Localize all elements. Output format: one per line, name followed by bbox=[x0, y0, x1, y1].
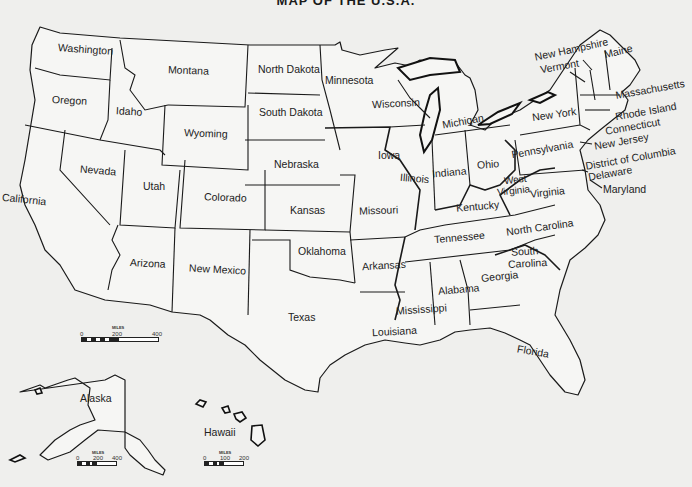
label-south-dakota: South Dakota bbox=[259, 107, 323, 118]
scale-bar-hawaii: MILES 0 100 200 bbox=[203, 450, 248, 468]
label-idaho: Idaho bbox=[116, 105, 143, 117]
label-minnesota: Minnesota bbox=[325, 75, 373, 86]
alaska-island bbox=[10, 455, 25, 462]
label-montana: Montana bbox=[168, 64, 209, 76]
label-colorado: Colorado bbox=[204, 191, 247, 203]
label-iowa: Iowa bbox=[378, 150, 400, 161]
label-oklahoma: Oklahoma bbox=[298, 246, 346, 257]
label-south-carolina-1: South bbox=[511, 245, 539, 257]
label-arkansas: Arkansas bbox=[362, 259, 406, 272]
label-illinois: Illinois bbox=[400, 172, 430, 185]
label-louisiana: Louisiana bbox=[372, 325, 417, 338]
scale-bar-alaska: MILES 0 200 400 bbox=[76, 450, 121, 468]
label-alaska: Alaska bbox=[80, 393, 112, 404]
label-wisconsin: Wisconsin bbox=[372, 97, 420, 110]
alaska-island bbox=[35, 388, 42, 394]
label-maryland: Maryland bbox=[603, 184, 646, 195]
label-ohio: Ohio bbox=[477, 158, 500, 170]
label-kansas: Kansas bbox=[290, 205, 325, 216]
label-hawaii: Hawaii bbox=[204, 427, 236, 438]
label-north-dakota: North Dakota bbox=[258, 64, 320, 75]
label-new-mexico: New Mexico bbox=[189, 263, 247, 276]
hawaii-island bbox=[251, 425, 265, 446]
hawaii-island bbox=[234, 412, 246, 422]
label-wyoming: Wyoming bbox=[184, 127, 228, 139]
label-texas: Texas bbox=[288, 312, 315, 323]
label-nebraska: Nebraska bbox=[274, 159, 319, 170]
label-south-carolina-2: Carolina bbox=[508, 257, 548, 270]
hawaii-island bbox=[222, 406, 230, 413]
label-missouri: Missouri bbox=[359, 204, 398, 216]
hawaii-island bbox=[196, 400, 206, 407]
label-arizona: Arizona bbox=[130, 257, 166, 269]
label-utah: Utah bbox=[143, 181, 165, 192]
scale-bar-main: MILES 0 200 400 bbox=[80, 322, 160, 342]
label-oregon: Oregon bbox=[52, 94, 88, 106]
